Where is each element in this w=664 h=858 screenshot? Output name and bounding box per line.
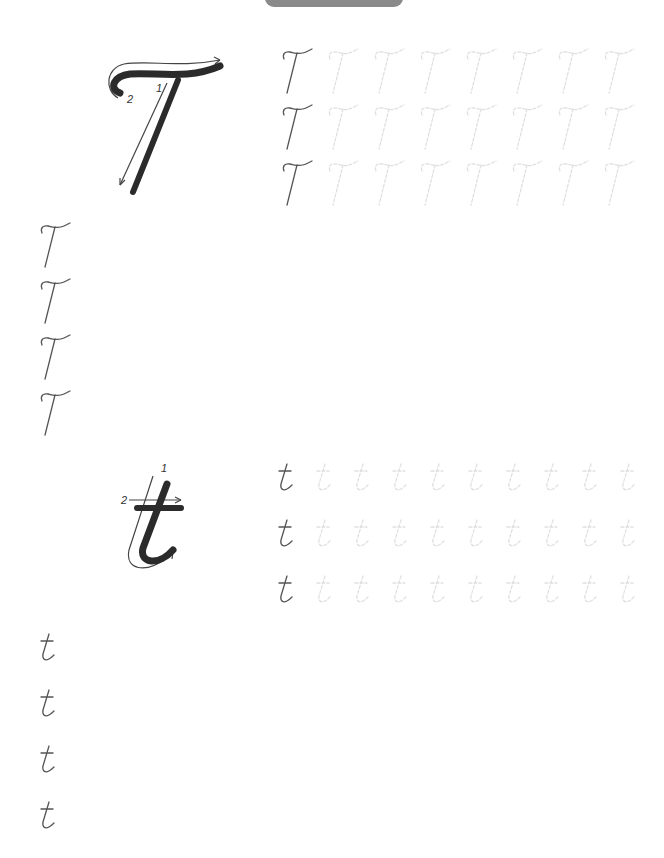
lowercase-t-model: 1 2	[115, 462, 195, 582]
lowercase-t-practice-rows	[40, 632, 70, 832]
uppercase-t-trace-rows	[282, 48, 662, 208]
stroke-order-diagram-icon: 1 2	[100, 50, 230, 200]
uppercase-t-practice-rows	[40, 222, 80, 442]
lowercase-t-trace-rows	[278, 462, 658, 602]
svg-text:2: 2	[126, 93, 133, 105]
uppercase-t-model: 1 2	[100, 50, 230, 200]
svg-text:1: 1	[156, 82, 162, 94]
page-header-tab	[265, 0, 403, 7]
svg-text:2: 2	[120, 494, 127, 506]
svg-text:1: 1	[161, 462, 167, 474]
stroke-order-diagram-icon: 1 2	[115, 462, 195, 582]
